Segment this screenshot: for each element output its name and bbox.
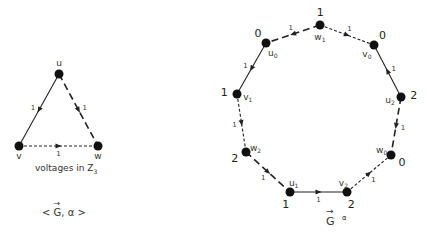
node-v2 — [343, 188, 352, 197]
node-name: v2 — [339, 178, 348, 189]
voltage-label: 1 — [391, 65, 395, 73]
base-graph-title: < → G , α > — [42, 207, 86, 218]
edge-u1-v2: 1 — [290, 190, 347, 205]
node-u0 — [262, 39, 271, 48]
node-label: u — [56, 58, 62, 68]
voltage-label: 1 — [289, 24, 293, 32]
edge-w1-v0: 1 — [320, 25, 374, 45]
arrowhead-icon — [239, 120, 244, 126]
node-value: 2 — [231, 152, 238, 165]
voltages-caption: voltages in Z3 — [35, 163, 97, 175]
edge-u-w: 1 — [59, 74, 98, 146]
arrowhead-icon — [56, 144, 62, 149]
g-with-arrow: → G — [326, 215, 335, 228]
node-value: 1 — [317, 6, 324, 19]
node-v — [15, 142, 24, 151]
edge-v1-w2: 1 — [232, 94, 246, 152]
node-value: 0 — [379, 29, 386, 42]
node-name: w1 — [314, 32, 325, 43]
angle-open: < — [42, 207, 50, 218]
g-letter: G — [326, 215, 335, 228]
vector-arrow-icon: → — [54, 199, 61, 208]
voltage-label: 1 — [232, 121, 236, 129]
caption-subscript: 3 — [93, 168, 97, 175]
alpha-part: , α — [61, 207, 74, 218]
node-value: 2 — [410, 89, 417, 102]
node-w1 — [316, 21, 325, 30]
node-name: u1 — [289, 178, 299, 189]
node-w0 — [387, 151, 396, 160]
voltage-label: 1 — [347, 25, 351, 33]
node-u — [55, 70, 64, 79]
g-letter: G — [54, 207, 62, 218]
caption-text: voltages in Z — [35, 163, 93, 173]
graph-drawing: 111uvw1111111111w10v02u20w02v21u12w21v10… — [0, 0, 426, 235]
alpha-superscript: α — [342, 214, 347, 222]
edge-w1-u0: 1 — [266, 24, 320, 43]
node-u2 — [397, 93, 406, 102]
node-v0 — [370, 41, 379, 50]
edge-u0-v1: 1 — [237, 43, 266, 94]
voltage-label: 1 — [371, 176, 375, 184]
node-name: w0 — [376, 145, 387, 156]
voltage-label: 1 — [82, 104, 86, 112]
voltage-label: 1 — [401, 124, 405, 132]
arrowhead-icon — [316, 190, 322, 195]
g-with-arrow: → G — [54, 207, 62, 218]
node-name: u2 — [385, 95, 395, 106]
node-value: 0 — [399, 156, 406, 169]
edge-u2-v0: 1 — [374, 45, 401, 97]
node-u1 — [286, 188, 295, 197]
diagram-canvas: 111uvw1111111111w10v02u20w02v21u12w21v10… — [0, 0, 426, 235]
node-label: v — [16, 151, 22, 161]
node-value: 1 — [221, 86, 228, 99]
voltage-label: 1 — [316, 196, 320, 204]
node-name: u0 — [268, 48, 278, 59]
vector-arrow-icon: → — [326, 206, 334, 216]
node-w — [94, 142, 103, 151]
voltage-label: 1 — [261, 174, 265, 182]
node-v1 — [233, 90, 242, 99]
arrowhead-icon — [394, 123, 399, 129]
edge-u-v: 1 — [19, 74, 59, 146]
node-name: w2 — [250, 143, 261, 154]
node-name: v1 — [243, 92, 252, 103]
node-value: 1 — [282, 198, 289, 211]
node-label: w — [94, 151, 101, 161]
derived-graph-title: → G α — [326, 214, 347, 228]
edge-v2-w0: 1 — [347, 155, 391, 192]
voltage-label: 1 — [31, 104, 35, 112]
voltage-label: 1 — [243, 62, 247, 70]
node-name: v0 — [362, 49, 371, 60]
edge-v-w: 1 — [19, 144, 98, 159]
node-value: 2 — [348, 198, 355, 211]
node-value: 0 — [254, 27, 261, 40]
edge-w2-u1: 1 — [246, 152, 290, 192]
voltage-label: 1 — [56, 150, 60, 158]
angle-close: > — [77, 207, 85, 218]
